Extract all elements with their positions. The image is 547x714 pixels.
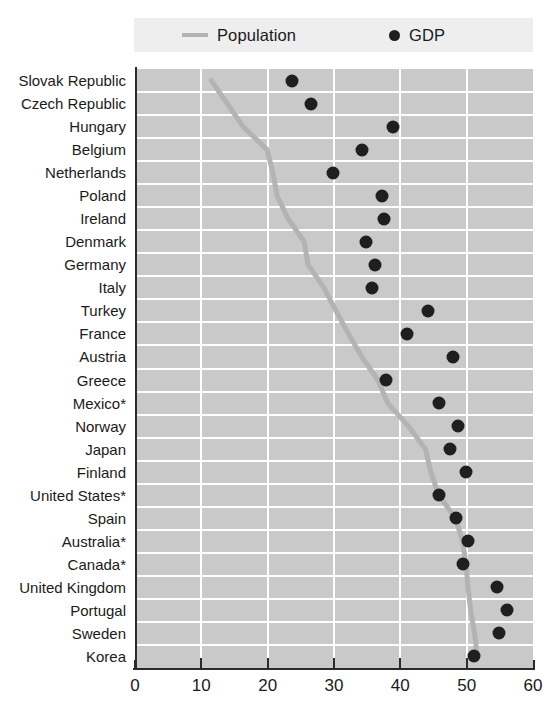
gdp-data-point (433, 489, 446, 502)
y-axis-label: Turkey (81, 299, 126, 323)
chart-page: Population GDP Slovak RepublicCzech Repu… (0, 0, 547, 714)
gdp-data-point (457, 558, 470, 571)
gdp-data-point (446, 350, 459, 363)
y-axis-label: Greece (77, 369, 126, 393)
gdp-data-point (355, 143, 368, 156)
gdp-data-point (493, 627, 506, 640)
y-axis-label: Belgium (72, 138, 126, 162)
gdp-data-point (387, 120, 400, 133)
legend-label-population: Population (217, 26, 296, 45)
x-axis-tick-label: 50 (457, 676, 476, 696)
gdp-data-point (452, 420, 465, 433)
legend-entry-gdp: GDP (389, 26, 445, 45)
chart-legend: Population GDP (134, 18, 533, 52)
gdp-data-point (359, 235, 372, 248)
gdp-data-point (380, 374, 393, 387)
y-axis-label: United Kingdom (19, 576, 126, 600)
x-axis-tick (333, 658, 335, 670)
x-axis-tick (200, 658, 202, 670)
legend-label-gdp: GDP (409, 26, 445, 45)
y-axis-label: Portugal (70, 599, 126, 623)
x-axis-tick (267, 658, 269, 670)
x-axis-tick (466, 658, 468, 670)
x-axis-tick-label: 60 (524, 676, 543, 696)
gdp-data-point (433, 397, 446, 410)
gdp-data-point (305, 97, 318, 110)
gdp-data-point (491, 581, 504, 594)
gdp-data-point (467, 650, 480, 663)
plot-area (135, 69, 533, 668)
y-axis-label: Austria (79, 345, 126, 369)
x-axis-tick-label: 20 (258, 676, 277, 696)
y-axis-label: Slovak Republic (18, 69, 126, 93)
gdp-data-point (286, 74, 299, 87)
y-axis-label: Canada* (68, 553, 126, 577)
y-axis-label: United States* (30, 484, 126, 508)
gdp-data-point (400, 327, 413, 340)
y-axis-label: Japan (85, 438, 126, 462)
gdp-data-point (501, 604, 514, 617)
y-axis-label: Hungary (69, 115, 126, 139)
gdp-data-point (450, 512, 463, 525)
x-axis-tick-label: 40 (391, 676, 410, 696)
gdp-data-point (365, 281, 378, 294)
line-swatch-icon (182, 33, 208, 37)
y-axis-labels: Slovak RepublicCzech RepublicHungaryBelg… (0, 69, 126, 668)
y-axis-label: Finland (77, 461, 126, 485)
y-axis-label: Australia* (62, 530, 126, 554)
y-axis-label: Sweden (72, 622, 126, 646)
x-axis-tick-label: 10 (192, 676, 211, 696)
y-axis-line (135, 67, 137, 670)
y-axis-label: Norway (75, 415, 126, 439)
y-axis-label: Netherlands (45, 161, 126, 185)
gdp-data-point (461, 535, 474, 548)
legend-entry-population: Population (182, 26, 296, 45)
y-axis-label: Poland (79, 184, 126, 208)
population-polyline (211, 81, 477, 657)
y-axis-label: Czech Republic (21, 92, 126, 116)
x-axis-left-cap (134, 660, 136, 670)
gdp-data-point (421, 304, 434, 317)
y-axis-label: Ireland (80, 207, 126, 231)
y-axis-label: Spain (88, 507, 126, 531)
x-axis-tick-label: 0 (130, 676, 139, 696)
x-axis-tick-label: 30 (325, 676, 344, 696)
y-axis-label: Korea (86, 645, 126, 669)
y-axis-label: France (79, 322, 126, 346)
y-axis-label: Italy (98, 276, 126, 300)
y-axis-label: Germany (64, 253, 126, 277)
y-axis-label: Denmark (65, 230, 126, 254)
gdp-data-point (327, 166, 340, 179)
gdp-data-point (369, 258, 382, 271)
dot-swatch-icon (389, 30, 400, 41)
y-axis-label: Mexico* (73, 392, 126, 416)
gdp-data-point (378, 212, 391, 225)
gdp-data-point (460, 466, 473, 479)
x-axis-right-cap (533, 660, 535, 670)
gdp-data-point (375, 189, 388, 202)
gdp-data-point (444, 443, 457, 456)
x-axis-tick (399, 658, 401, 670)
population-line (135, 69, 533, 668)
